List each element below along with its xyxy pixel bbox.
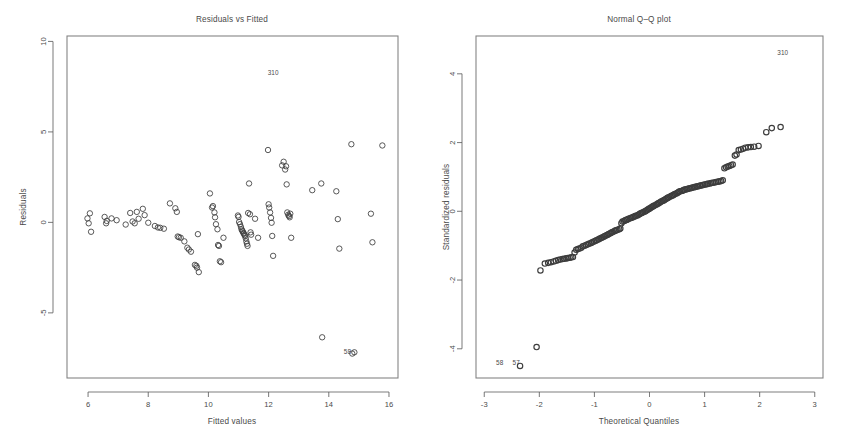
data-point [380, 143, 385, 148]
x-tick-label: 8 [146, 400, 150, 409]
data-point [265, 147, 270, 152]
data-point [284, 182, 289, 187]
data-point [534, 344, 539, 349]
x-tick-label: -1 [591, 400, 598, 409]
data-point [221, 235, 226, 240]
x-tick-label: -2 [536, 400, 543, 409]
data-point [270, 253, 275, 258]
residuals-plot-frame [67, 36, 398, 378]
y-tick-label: -5 [39, 309, 48, 316]
data-point [109, 216, 114, 221]
data-point [123, 222, 128, 227]
data-point [215, 227, 220, 232]
data-point [335, 216, 340, 221]
qq-x-axis-title: Theoretical Quantiles [599, 417, 680, 426]
data-point [778, 124, 783, 129]
data-point [134, 209, 139, 214]
data-point [319, 335, 324, 340]
residuals-plot-title: Residuals vs Fitted [196, 15, 268, 24]
plot-frame-rect [67, 36, 398, 378]
residuals-tick-labels: 68101214161050-5 [39, 37, 393, 409]
data-point [252, 216, 257, 221]
qq-axis-ticks [457, 74, 815, 397]
data-point [114, 218, 119, 223]
qq-y-axis-title: Standardized residuals [442, 164, 451, 251]
data-point [213, 221, 218, 226]
data-point [769, 125, 774, 130]
residuals-data-points [85, 142, 385, 357]
data-point [86, 221, 91, 226]
x-tick-label: -3 [481, 400, 488, 409]
data-point [167, 201, 172, 206]
data-point [310, 187, 315, 192]
outlier-label: 57 [513, 359, 521, 366]
data-point [538, 268, 543, 273]
data-point [140, 206, 145, 211]
x-tick-label: 3 [813, 400, 817, 409]
residuals-x-axis-title: Fitted values [208, 417, 256, 426]
data-point [270, 233, 275, 238]
qq-point-labels: 3105857 [496, 49, 789, 366]
data-point [370, 240, 375, 245]
residuals-vs-fitted-canvas: Residuals vs Fitted 68101214161050-5 310… [0, 0, 424, 439]
outlier-label: 310 [268, 69, 279, 76]
outlier-label: 310 [777, 49, 788, 56]
qq-data-points [517, 124, 783, 368]
data-point [288, 235, 293, 240]
y-tick-label: -4 [448, 345, 457, 352]
data-point [319, 181, 324, 186]
y-tick-label: 4 [448, 72, 457, 76]
y-tick-label: 10 [39, 37, 48, 46]
x-tick-label: 10 [204, 400, 213, 409]
data-point [368, 211, 373, 216]
data-point [246, 181, 251, 186]
x-tick-label: 0 [647, 400, 651, 409]
data-point [195, 231, 200, 236]
qq-plot-title: Normal Q–Q plot [607, 15, 671, 24]
y-tick-label: -2 [448, 277, 457, 284]
y-tick-label: 2 [448, 140, 457, 144]
data-point [88, 229, 93, 234]
y-tick-label: 0 [39, 220, 48, 224]
data-point [247, 212, 252, 217]
data-point [182, 239, 187, 244]
diagnostic-plot-figure: Residuals vs Fitted 68101214161050-5 310… [0, 0, 847, 439]
data-point [142, 212, 147, 217]
x-tick-label: 16 [385, 400, 394, 409]
data-point [146, 220, 151, 225]
data-point [349, 142, 354, 147]
x-tick-label: 12 [264, 400, 273, 409]
residuals-axis-ticks [48, 41, 389, 397]
data-point [255, 235, 260, 240]
outlier-label: 58 [344, 348, 352, 355]
data-point [127, 210, 132, 215]
data-point [207, 191, 212, 196]
outlier-label: 58 [496, 359, 504, 366]
data-point [196, 269, 201, 274]
x-tick-label: 1 [702, 400, 706, 409]
data-point [283, 164, 288, 169]
x-tick-label: 2 [757, 400, 761, 409]
data-point [136, 216, 141, 221]
data-point [337, 246, 342, 251]
data-point [764, 130, 769, 135]
x-tick-label: 14 [324, 400, 333, 409]
x-tick-label: 6 [86, 400, 90, 409]
normal-qq-plot-canvas: Normal Q–Q plot -3-2-10123420-2-4 310585… [423, 0, 847, 439]
panel-normal-qq-plot: Normal Q–Q plot -3-2-10123420-2-4 310585… [423, 0, 847, 439]
residuals-y-axis-title: Residuals [19, 188, 28, 225]
data-point [161, 226, 166, 231]
data-point [87, 211, 92, 216]
y-tick-label: 5 [39, 130, 48, 134]
data-point [334, 189, 339, 194]
residuals-point-labels: 31058 [268, 69, 352, 356]
panel-residuals-vs-fitted: Residuals vs Fitted 68101214161050-5 310… [0, 0, 424, 439]
